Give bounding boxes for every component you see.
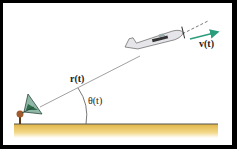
radar-dish-icon (17, 94, 43, 124)
position-vector-label: r(t) (70, 73, 84, 84)
diagram-canvas (0, 0, 237, 149)
angle-arc (78, 88, 87, 124)
ground (14, 124, 218, 138)
velocity-vector-label: v(t) (199, 38, 214, 49)
angle-label: θ(t) (88, 95, 102, 106)
airplane-icon (123, 26, 184, 53)
